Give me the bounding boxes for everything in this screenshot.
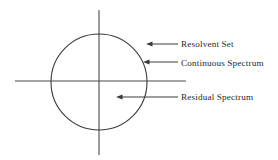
label-resolvent-set: Resolvent Set	[181, 39, 234, 50]
spectrum-diagram-figure: Resolvent Set Continuous Spectrum Residu…	[0, 0, 278, 160]
resolvent-set-arrow	[146, 42, 178, 47]
continuous-spectrum-arrow	[143, 60, 178, 65]
label-residual-spectrum: Residual Spectrum	[181, 92, 253, 103]
label-continuous-spectrum: Continuous Spectrum	[181, 58, 264, 69]
diagram-canvas	[0, 0, 278, 160]
residual-spectrum-arrow	[116, 95, 178, 100]
